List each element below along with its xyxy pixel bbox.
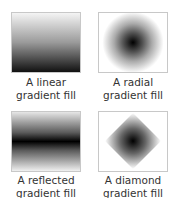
caption-line: A reflected [0,174,92,187]
reflected-gradient-swatch [11,111,81,172]
linear-gradient-swatch [11,12,81,73]
radial-gradient-swatch [98,12,168,73]
caption-line: A radial [87,76,179,89]
linear-gradient-caption: A linear gradient fill [0,76,92,102]
caption-line: gradient fill [0,187,92,198]
diamond-shape [105,113,161,169]
caption-line: A diamond [87,174,179,187]
caption-line: A linear [0,76,92,89]
diamond-gradient-caption: A diamond gradient fill [87,174,179,198]
reflected-gradient-caption: A reflected gradient fill [0,174,92,198]
caption-line: gradient fill [87,89,179,102]
caption-line: gradient fill [0,89,92,102]
caption-line: gradient fill [87,187,179,198]
diamond-gradient-swatch [98,111,168,172]
radial-gradient-caption: A radial gradient fill [87,76,179,102]
